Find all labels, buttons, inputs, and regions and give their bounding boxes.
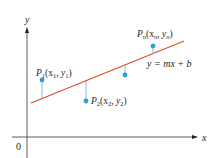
x-axis-label: x <box>201 132 207 143</box>
equation-text: y = mx + b <box>146 58 192 69</box>
label-p2: P2(x2, y2) <box>90 96 127 107</box>
y-axis-arrow-icon <box>25 27 29 33</box>
y-axis-label: y <box>24 14 30 25</box>
regression-diagram: y x 0 y = mx + b P1(x1, y1) P2(x2, y2) P… <box>0 0 213 158</box>
label-p1: P1(x1, y1) <box>35 68 72 79</box>
origin-label: 0 <box>16 141 21 152</box>
equation-label: y = mx + b <box>146 58 192 69</box>
point-pn <box>151 44 156 49</box>
x-axis-arrow-icon <box>192 135 198 139</box>
point-p2 <box>84 99 89 104</box>
label-pn: Pn(xn, yn) <box>136 29 173 40</box>
point-p3 <box>123 73 128 78</box>
